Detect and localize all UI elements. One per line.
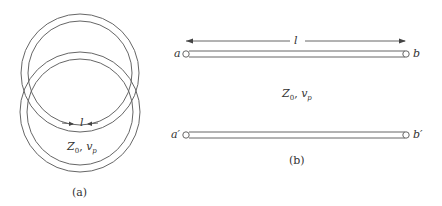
diagram-drawing [0,0,442,206]
terminal-a: a [174,48,181,59]
ring-line-top [21,14,139,132]
caption-b: (b) [289,155,305,166]
conductor-top [183,51,409,57]
terminal-b-prime: b′ [413,129,423,140]
length-label-a: l [80,117,84,128]
conductor-bottom [183,132,409,138]
impedance-velocity-label-a: Z0, vp [67,141,97,155]
length-label-b: l [294,35,298,46]
caption-a: (a) [72,187,87,198]
impedance-velocity-label-b: Z0, vp [282,88,312,102]
terminal-a-prime: a′ [171,129,180,140]
terminal-b: b [413,48,420,59]
transmission-line-figure: l Z0, vp (a) l a b Z0, vp a′ b′ (b) [0,0,442,206]
